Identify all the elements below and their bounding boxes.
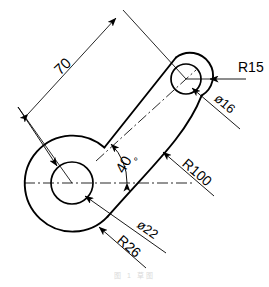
technical-drawing-svg: 70 40 ° R15 ø16 R100 bbox=[0, 0, 269, 287]
dimension-label-40: 40 bbox=[112, 153, 135, 176]
dimension-label-R100: R100 bbox=[179, 155, 215, 189]
witness-line-right bbox=[123, 10, 186, 79]
figure-caption: 图 1 草图 bbox=[0, 270, 269, 280]
dimension-label-dia22: ø22 bbox=[134, 217, 161, 242]
inclined-centre-axis bbox=[96, 70, 196, 161]
large-boss-outer-arc bbox=[25, 136, 108, 232]
dimension-label-dia16: ø16 bbox=[212, 91, 239, 117]
dimension-label-R26: R26 bbox=[114, 232, 144, 261]
upper-flank-line bbox=[104, 58, 176, 148]
dimension-label-R15: R15 bbox=[238, 59, 264, 75]
drawing-canvas: 70 40 ° R15 ø16 R100 bbox=[0, 0, 269, 287]
leader-line-R26-upper bbox=[18, 107, 57, 166]
centre-lines bbox=[24, 70, 196, 183]
dimension-label-70: 70 bbox=[50, 54, 74, 78]
part-outline bbox=[25, 53, 213, 232]
